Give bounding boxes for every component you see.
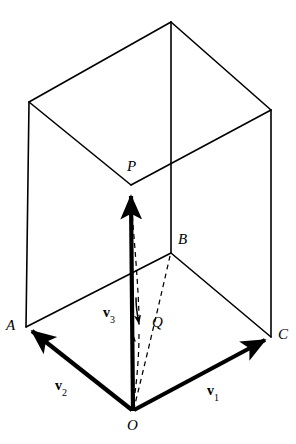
edge-topleft-A [26, 102, 29, 327]
vector-label-v2-sub: 2 [62, 387, 67, 398]
point-label-P: P [127, 159, 136, 174]
edge-topback-topleft [29, 22, 171, 102]
vector-label-v3-sub: 3 [110, 314, 115, 325]
point-label-Q: Q [152, 315, 163, 330]
edge-topleft-P [29, 102, 131, 185]
edge-A-B [26, 253, 171, 327]
vector-label-v1-main: v [207, 383, 214, 398]
dashed-B-to-O [134, 256, 170, 408]
vector-label-v1-sub: 1 [214, 392, 219, 403]
vector-v1-O-to-C [134, 340, 265, 410]
vector-label-v1: v1 [207, 384, 219, 401]
edge-topback-topright [171, 22, 271, 110]
vector-label-v2: v2 [55, 379, 67, 396]
edge-topright-P [131, 110, 271, 185]
point-label-A: A [6, 318, 15, 333]
point-label-B: B [178, 232, 187, 247]
box-wireframe [26, 22, 271, 337]
vector-label-v3: v3 [103, 306, 115, 323]
vector-v2-O-to-A [32, 331, 132, 410]
vector-v3-O-to-P [131, 196, 133, 411]
vector-label-v2-main: v [55, 378, 62, 393]
point-label-C: C [278, 327, 288, 342]
figure-canvas: A B C P Q O v1 v2 v3 [0, 0, 296, 444]
vector-label-v3-main: v [103, 305, 110, 320]
edge-C-B [171, 253, 271, 337]
point-label-O: O [127, 418, 138, 433]
parallelepiped-vector-diagram [0, 0, 296, 444]
